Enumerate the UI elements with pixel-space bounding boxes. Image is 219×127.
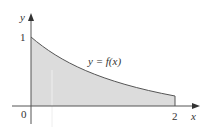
shaded-region — [31, 37, 175, 106]
x-axis-arrow-icon — [192, 103, 200, 109]
y-tick-1: 1 — [20, 31, 26, 43]
origin-label: 0 — [21, 108, 27, 120]
x-tick-2: 2 — [172, 110, 178, 122]
y-axis-arrow-icon — [28, 13, 34, 21]
curve-label: y = f(x) — [87, 55, 121, 68]
x-axis-label: x — [190, 110, 196, 122]
y-axis-label: y — [19, 11, 25, 23]
chart-figure: y 1 0 2 x y = f(x) — [0, 0, 219, 127]
